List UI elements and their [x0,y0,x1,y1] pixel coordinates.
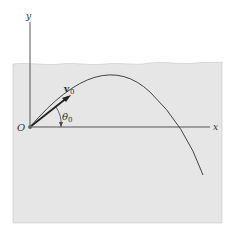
angle-subscript: 0 [68,116,72,124]
y-axis-label: y [25,11,32,21]
origin-point [28,125,32,129]
shaded-region [13,62,222,223]
x-axis-label: x [213,122,218,132]
projectile-diagram: y x O v 0 θ 0 [0,0,233,235]
velocity-label: v [63,84,70,94]
velocity-subscript: 0 [70,88,74,96]
origin-label: O [17,122,25,133]
